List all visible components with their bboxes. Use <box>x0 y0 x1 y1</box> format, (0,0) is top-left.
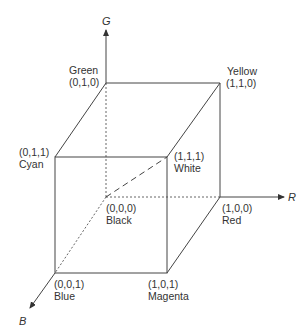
vertex-coords: (1,1,1) <box>174 150 204 162</box>
edge-yellow-white <box>167 83 220 157</box>
g-axis-label: G <box>102 15 111 27</box>
vertex-coords: (0,0,0) <box>106 202 136 214</box>
vertex-name: Magenta <box>148 290 189 302</box>
vertex-name: Yellow <box>227 65 257 77</box>
vertex-coords: (1,1,0) <box>226 77 256 89</box>
vertex-name: White <box>174 162 201 174</box>
vertex-name: Green <box>69 64 98 76</box>
vertex-label-green: Green (0,1,0) <box>69 64 99 88</box>
rgb-cube-diagram: G R B Green (0,1,0) Yellow (1,1,0) (0,1,… <box>0 0 308 336</box>
vertex-coords: (0,0,1) <box>54 278 84 290</box>
vertex-label-black: (0,0,0) Black <box>106 202 136 226</box>
edge-red-magenta <box>167 197 220 273</box>
vertex-label-blue: (0,0,1) Blue <box>54 278 84 302</box>
vertex-label-red: (1,0,0) Red <box>222 202 252 226</box>
vertex-coords: (0,1,0) <box>69 76 99 88</box>
vertex-label-magenta: (1,0,1) Magenta <box>148 278 189 302</box>
vertex-name: Red <box>222 214 241 226</box>
vertex-name: Black <box>106 214 132 226</box>
r-axis-label: R <box>288 191 296 203</box>
b-axis-label: B <box>19 315 26 327</box>
edge-green-cyan <box>55 83 106 157</box>
vertex-name: Blue <box>54 290 75 302</box>
vertex-label-white: (1,1,1) White <box>174 150 204 174</box>
vertex-label-yellow: Yellow (1,1,0) <box>226 65 257 89</box>
vertex-coords: (1,0,0) <box>222 202 252 214</box>
vertex-coords: (0,1,1) <box>19 146 49 158</box>
grayscale-diagonal <box>106 157 167 197</box>
hidden-edge-black-blue <box>55 197 106 273</box>
b-axis <box>30 273 55 308</box>
vertex-label-cyan: (0,1,1) Cyan <box>19 146 49 170</box>
vertex-coords: (1,0,1) <box>148 278 178 290</box>
vertex-name: Cyan <box>19 158 44 170</box>
